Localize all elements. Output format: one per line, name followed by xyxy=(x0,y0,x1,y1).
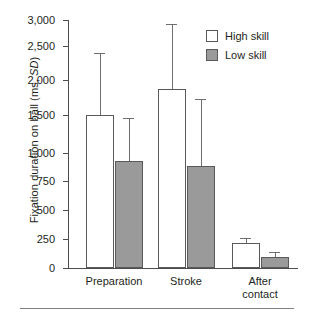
error-stem-preparation-low-skill xyxy=(129,118,130,161)
x-axis-label-preparation: Preparation xyxy=(86,275,143,288)
y-tick-750: 750 xyxy=(63,181,68,182)
legend-swatch-low-skill xyxy=(206,49,218,61)
error-cap-preparation-high-skill xyxy=(94,53,105,54)
x-axis-label-stroke: Stroke xyxy=(170,275,202,288)
y-tick-1500: 1,500 xyxy=(63,115,68,116)
x-axis-line xyxy=(68,268,298,269)
legend-item-low-skill: Low skill xyxy=(206,47,269,63)
bar-after-contact-high-skill xyxy=(232,243,260,268)
error-cap-after-contact-high-skill xyxy=(240,238,251,239)
figure-container: Fixation duration on ball (ms, SD) 3,000… xyxy=(0,0,313,317)
legend-label-high-skill: High skill xyxy=(225,31,269,42)
y-tick-label-250: 250 xyxy=(37,234,55,245)
x-axis-label-after-contact: After contact xyxy=(242,275,277,301)
y-tick-1000: 1,000 xyxy=(63,153,68,154)
legend: High skill Low skill xyxy=(206,28,269,66)
y-tick-2500: 2,500 xyxy=(63,46,68,47)
error-stem-stroke-high-skill xyxy=(172,24,173,88)
error-cap-after-contact-low-skill xyxy=(269,252,280,253)
y-axis-line xyxy=(68,20,69,269)
y-tick-label-500: 500 xyxy=(37,205,55,216)
bar-preparation-high-skill xyxy=(86,115,114,268)
error-cap-preparation-low-skill xyxy=(123,118,134,119)
error-stem-stroke-low-skill xyxy=(201,99,202,166)
footer-rule xyxy=(20,308,294,309)
y-tick-label-3000: 3,000 xyxy=(27,15,55,26)
error-stem-preparation-high-skill xyxy=(100,53,101,115)
y-tick-label-750: 750 xyxy=(37,176,55,187)
bar-preparation-low-skill xyxy=(115,161,143,268)
y-tick-0: 0 xyxy=(63,268,68,269)
y-tick-250: 250 xyxy=(63,239,68,240)
y-tick-label-2000: 2,000 xyxy=(27,75,55,86)
legend-item-high-skill: High skill xyxy=(206,28,269,44)
legend-swatch-high-skill xyxy=(206,30,218,42)
bar-after-contact-low-skill xyxy=(261,257,289,268)
bar-stroke-low-skill xyxy=(187,166,215,268)
y-tick-label-1500: 1,500 xyxy=(27,110,55,121)
y-tick-3000: 3,000 xyxy=(63,20,68,21)
bar-stroke-high-skill xyxy=(158,89,186,268)
y-axis-title-suffix: ) xyxy=(28,57,40,61)
y-axis-title: Fixation duration on ball (ms, SD) xyxy=(28,20,40,260)
y-tick-label-2500: 2,500 xyxy=(27,41,55,52)
error-cap-stroke-low-skill xyxy=(195,99,206,100)
legend-label-low-skill: Low skill xyxy=(225,50,267,61)
y-tick-2000: 2,000 xyxy=(63,80,68,81)
y-tick-label-0: 0 xyxy=(49,263,55,274)
error-cap-stroke-high-skill xyxy=(166,24,177,25)
y-tick-500: 500 xyxy=(63,210,68,211)
y-tick-label-1000: 1,000 xyxy=(27,148,55,159)
